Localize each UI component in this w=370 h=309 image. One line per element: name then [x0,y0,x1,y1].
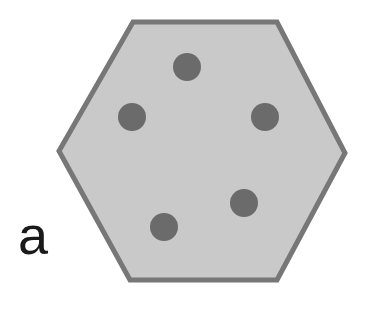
dot-5 [150,213,178,241]
hexagon-diagram [0,0,370,309]
panel-label: a [18,208,48,262]
dot-2 [118,103,146,131]
dot-1 [173,53,201,81]
dot-4 [230,189,258,217]
dot-3 [251,103,279,131]
hexagon-shape [59,22,345,280]
